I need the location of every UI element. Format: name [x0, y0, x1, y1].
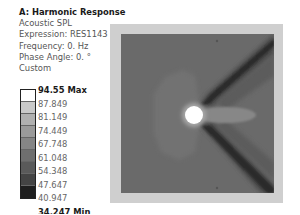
acoustic-field-domain — [121, 34, 274, 193]
legend-band — [21, 138, 35, 150]
mesh-marker — [216, 40, 218, 42]
result-title: A: Harmonic Response — [19, 7, 125, 18]
legend-band — [21, 174, 35, 186]
legend-band — [21, 102, 35, 114]
mesh-marker — [216, 187, 218, 189]
contour-plot-viewport[interactable] — [110, 24, 283, 203]
legend-label: 67.748 — [38, 138, 90, 152]
legend-label: 74.449 — [38, 125, 90, 139]
legend-band — [21, 114, 35, 126]
acoustic-source — [185, 106, 203, 124]
legend-colorbar — [20, 89, 36, 199]
legend-band — [21, 150, 35, 162]
legend-label: 87.849 — [38, 98, 90, 112]
legend-band — [21, 90, 35, 102]
legend-band — [21, 126, 35, 138]
legend-labels: 94.55 Max 87.849 81.149 74.449 67.748 61… — [38, 84, 90, 214]
legend-min-label: 34.247 Min — [38, 206, 90, 215]
legend-label: 47.647 — [38, 179, 90, 193]
spl-contour-graphic — [121, 34, 274, 193]
legend-band — [21, 186, 35, 198]
legend-label: 61.048 — [38, 152, 90, 166]
legend-band — [21, 162, 35, 174]
legend-label: 81.149 — [38, 111, 90, 125]
legend-label: 40.947 — [38, 192, 90, 206]
legend-label: 54.348 — [38, 165, 90, 179]
legend-max-label: 94.55 Max — [38, 84, 90, 98]
